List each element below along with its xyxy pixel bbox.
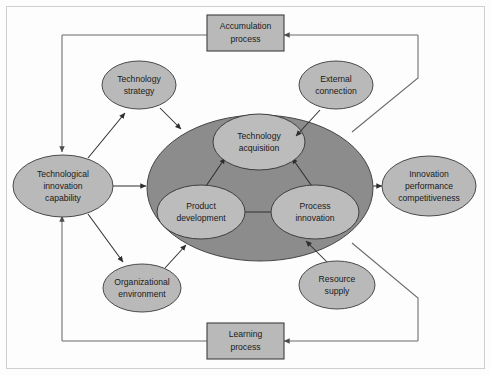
process-innovation-shape bbox=[271, 185, 359, 239]
process-box-accumulation[interactable]: Accumulation process bbox=[207, 15, 284, 51]
process-innovation-label-line2: innovation bbox=[295, 213, 334, 223]
technology-acquisition-shape bbox=[213, 114, 305, 170]
external-connection-shape bbox=[299, 61, 373, 109]
capability-label-line2: innovation bbox=[43, 181, 82, 191]
capability-label-line1: Technological bbox=[37, 169, 89, 179]
organizational-environment-label-line1: Organizational bbox=[114, 277, 170, 287]
organizational-environment-label-line2: environment bbox=[118, 289, 166, 299]
external-connection-label-line1: External bbox=[320, 74, 352, 84]
performance-label-line3: competitiveness bbox=[398, 193, 460, 203]
resource-supply-label-line1: Resource bbox=[319, 274, 356, 284]
technology-strategy-label-line2: strategy bbox=[124, 86, 155, 96]
accumulation-label-line2: process bbox=[230, 34, 260, 44]
resource-supply-label-line2: supply bbox=[325, 286, 351, 296]
node-process-innovation[interactable]: Process innovation bbox=[271, 185, 359, 239]
external-connection-label-line2: connection bbox=[315, 86, 357, 96]
technology-acquisition-label-line1: Technology bbox=[237, 131, 281, 141]
performance-label-line2: performance bbox=[405, 181, 453, 191]
technology-acquisition-label-line2: acquisition bbox=[239, 143, 280, 153]
learning-label-line1: Learning bbox=[229, 329, 263, 339]
technology-strategy-label-line1: Technology bbox=[117, 74, 161, 84]
product-development-shape bbox=[157, 185, 245, 239]
diagram-canvas: Technology acquisition Product developme… bbox=[0, 0, 491, 375]
node-technology-strategy[interactable]: Technology strategy bbox=[102, 61, 176, 109]
technology-strategy-shape bbox=[102, 61, 176, 109]
product-development-label-line1: Product bbox=[186, 201, 216, 211]
capability-to-strategy-arrow bbox=[88, 113, 125, 158]
strategy-to-core-arrow bbox=[160, 108, 181, 129]
node-external-connection[interactable]: External connection bbox=[299, 61, 373, 109]
accumulation-label-line1: Accumulation bbox=[220, 21, 272, 31]
node-technological-innovation-capability[interactable]: Technological innovation capability bbox=[13, 155, 113, 217]
capability-to-environment-arrow bbox=[88, 214, 123, 262]
performance-label-line1: Innovation bbox=[409, 169, 449, 179]
node-product-development[interactable]: Product development bbox=[157, 185, 245, 239]
node-technology-acquisition[interactable]: Technology acquisition bbox=[213, 114, 305, 170]
node-innovation-performance-competitiveness[interactable]: Innovation performance competitiveness bbox=[382, 156, 476, 216]
node-organizational-environment[interactable]: Organizational environment bbox=[103, 264, 181, 312]
organizational-environment-shape bbox=[103, 264, 181, 312]
process-innovation-label-line1: Process bbox=[299, 201, 330, 211]
process-box-learning[interactable]: Learning process bbox=[207, 323, 284, 359]
product-development-label-line2: development bbox=[176, 213, 226, 223]
resource-supply-shape bbox=[299, 261, 375, 309]
learning-label-line2: process bbox=[230, 342, 260, 352]
capability-label-line3: capability bbox=[45, 193, 82, 203]
node-resource-supply[interactable]: Resource supply bbox=[299, 261, 375, 309]
environment-to-core-arrow bbox=[165, 245, 186, 268]
